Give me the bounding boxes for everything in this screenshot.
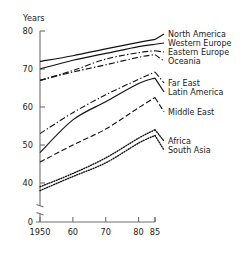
legend-leader-line: [155, 51, 164, 52]
legend-leader-line: [155, 98, 164, 113]
legend-leader-line: [155, 130, 164, 141]
y-tick-label: 0: [28, 217, 33, 227]
life-expectancy-line-chart: 80706050400195060708085 Years North Amer…: [0, 0, 243, 266]
y-tick-label: 70: [23, 64, 33, 74]
legend-leader-line: [155, 34, 164, 39]
series-line: [40, 39, 155, 61]
legend-label: Latin America: [168, 88, 223, 97]
x-tick-label: 80: [133, 227, 143, 237]
legend-label: Africa: [168, 137, 191, 146]
legend-label: Eastern Europe: [168, 48, 229, 57]
data-series: [40, 39, 155, 190]
legend-label: South Asia: [168, 146, 211, 155]
axis-ticks: [40, 31, 155, 222]
series-line: [40, 136, 155, 191]
series-line: [40, 78, 155, 152]
axes: [36, 31, 155, 222]
legend-label: Far East: [168, 79, 200, 88]
legend-leader-line: [155, 78, 164, 92]
x-tick-label: 70: [101, 227, 111, 237]
y-tick-label: 50: [23, 140, 33, 150]
y-tick-label: 40: [23, 178, 33, 188]
x-tick-label: 85: [150, 227, 160, 237]
y-tick-label: 80: [23, 26, 33, 36]
x-tick-label: 1950: [30, 227, 51, 237]
y-axis-title: Years: [22, 13, 45, 23]
series-line: [40, 72, 155, 134]
legend-label: Oceania: [168, 57, 201, 66]
series-line: [40, 130, 155, 187]
legend-leader-line: [155, 136, 164, 151]
series-line: [40, 44, 155, 69]
series-line: [40, 98, 155, 163]
legend-leader-line: [155, 72, 164, 83]
legend-leader-line: [155, 43, 164, 44]
y-tick-label: 60: [23, 102, 33, 112]
legend-label: Western Europe: [168, 39, 232, 48]
x-tick-label: 60: [68, 227, 78, 237]
legend-label: North America: [168, 30, 226, 39]
legend-leader-line: [155, 55, 164, 61]
legend-leader-lines: [155, 34, 164, 150]
series-legend: North AmericaWestern EuropeEastern Europ…: [168, 30, 232, 155]
chart-canvas: 80706050400195060708085 Years North Amer…: [0, 0, 243, 266]
legend-label: Middle East: [168, 108, 214, 117]
